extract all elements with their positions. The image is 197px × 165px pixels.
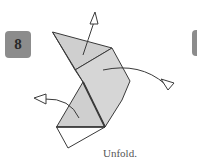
paper-model bbox=[53, 32, 131, 148]
origami-diagram bbox=[0, 0, 197, 165]
step-caption: Unfold. bbox=[103, 147, 137, 159]
